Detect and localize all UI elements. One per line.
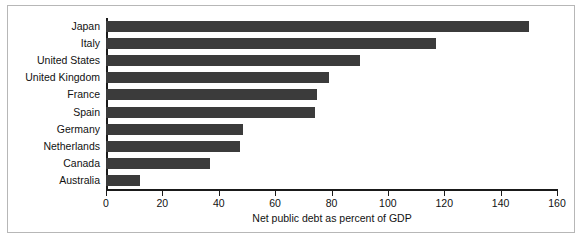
- x-tick-label: 140: [492, 197, 510, 209]
- category-label: Germany: [2, 124, 100, 135]
- bar-fill: [106, 124, 243, 135]
- bar-fill: [106, 141, 240, 152]
- x-tick-label: 40: [213, 197, 225, 209]
- bar: [106, 158, 210, 169]
- bar: [106, 107, 315, 118]
- x-tick-label: 160: [548, 197, 566, 209]
- x-tick-mark: [162, 191, 163, 196]
- bar-fill: [106, 55, 360, 66]
- category-label: Canada: [2, 158, 100, 169]
- bar: [106, 89, 317, 100]
- category-label: France: [2, 89, 100, 100]
- x-tick-mark: [388, 191, 389, 196]
- x-tick-label: 0: [103, 197, 109, 209]
- x-tick-label: 120: [435, 197, 453, 209]
- x-tick-label: 80: [326, 197, 338, 209]
- bar: [106, 124, 243, 135]
- category-label: Japan: [2, 21, 100, 32]
- x-tick-mark: [501, 191, 502, 196]
- x-tick-mark: [275, 191, 276, 196]
- x-tick-mark: [444, 191, 445, 196]
- bar: [106, 21, 529, 32]
- figure: JapanItalyUnited StatesUnited KingdomFra…: [0, 0, 582, 239]
- bar: [106, 175, 140, 186]
- category-label: Spain: [2, 107, 100, 118]
- x-tick-mark: [219, 191, 220, 196]
- x-tick-mark: [106, 191, 107, 196]
- bar: [106, 55, 360, 66]
- bar-fill: [106, 107, 315, 118]
- bar-fill: [106, 89, 317, 100]
- bar: [106, 141, 240, 152]
- x-tick-label: 20: [157, 197, 169, 209]
- x-tick-label: 100: [379, 197, 397, 209]
- category-label: Australia: [2, 175, 100, 186]
- x-tick-mark: [557, 191, 558, 196]
- bar-fill: [106, 72, 329, 83]
- x-tick-label: 60: [269, 197, 281, 209]
- bar-fill: [106, 158, 210, 169]
- bar-fill: [106, 21, 529, 32]
- bar-fill: [106, 175, 140, 186]
- x-axis-title: Net public debt as percent of GDP: [106, 212, 558, 224]
- category-label: Netherlands: [2, 141, 100, 152]
- bar: [106, 38, 436, 49]
- bar: [106, 72, 329, 83]
- category-label: United Kingdom: [2, 72, 100, 83]
- x-tick-mark: [332, 191, 333, 196]
- bar-fill: [106, 38, 436, 49]
- category-label: United States: [2, 55, 100, 66]
- category-label: Italy: [2, 38, 100, 49]
